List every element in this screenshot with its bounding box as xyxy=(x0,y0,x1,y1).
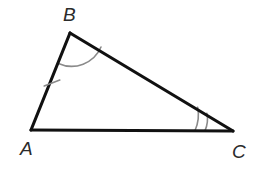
vertex-label-a: A xyxy=(19,138,33,159)
vertex-label-b: B xyxy=(63,4,76,25)
vertex-label-c: C xyxy=(232,141,246,162)
figure-background xyxy=(0,0,260,172)
side-ac xyxy=(31,130,233,131)
geometry-canvas: A B C xyxy=(0,0,260,172)
triangle-figure: A B C xyxy=(0,0,260,172)
